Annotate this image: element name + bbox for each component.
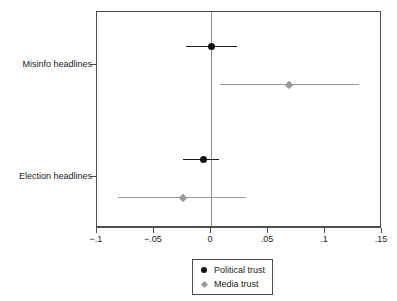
x-axis-tick-label-0: −.1 <box>90 234 103 244</box>
x-axis-line <box>96 227 381 228</box>
legend: Political trust Media trust <box>192 259 273 295</box>
diamond-marker-icon <box>198 282 210 287</box>
x-axis-tick-label-3: .05 <box>261 234 274 244</box>
legend-item-political-trust: Political trust <box>198 263 265 277</box>
x-axis-tick-label-4: .1 <box>320 234 328 244</box>
x-axis-tick-0 <box>96 228 97 233</box>
x-axis-tick-4 <box>324 228 325 233</box>
x-axis-tick-label-1: −.05 <box>144 234 162 244</box>
estimate-marker-election-media-trust <box>178 193 186 201</box>
plot-area <box>96 11 381 227</box>
legend-label-political-trust: Political trust <box>214 265 265 275</box>
estimate-marker-misinfo-political-trust <box>208 43 215 50</box>
estimate-marker-election-political-trust <box>200 156 207 163</box>
x-axis-tick-2 <box>210 228 211 233</box>
x-axis-tick-3 <box>267 228 268 233</box>
legend-item-media-trust: Media trust <box>198 277 265 291</box>
x-axis-tick-label-2: 0 <box>207 234 212 244</box>
x-axis-tick-5 <box>381 228 382 233</box>
y-axis-labels: Misinfo headlines Election headlines <box>0 0 92 301</box>
x-axis: −.1−.050.05.1.15 <box>96 227 381 257</box>
x-axis-tick-label-5: .15 <box>375 234 388 244</box>
legend-label-media-trust: Media trust <box>214 279 259 289</box>
estimate-marker-misinfo-media-trust <box>284 80 292 88</box>
y-axis-label-election-headlines: Election headlines <box>19 171 92 181</box>
x-axis-tick-1 <box>153 228 154 233</box>
y-axis-label-misinfo-headlines: Misinfo headlines <box>22 59 92 69</box>
coefficient-plot-figure: Misinfo headlines Election headlines −.1… <box>0 0 397 301</box>
circle-marker-icon <box>198 267 210 273</box>
